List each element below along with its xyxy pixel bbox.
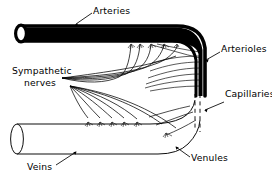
artery-lumen-opening bbox=[16, 25, 27, 42]
label-sympathetic-nerves-line2: nerves bbox=[24, 77, 56, 88]
label-arterioles: Arterioles bbox=[221, 43, 267, 54]
label-veins: Veins bbox=[27, 161, 52, 172]
blood-vessel-innervation-figure: Arteries Arterioles Capillaries Venules … bbox=[0, 0, 272, 177]
vein-lumen-opening bbox=[11, 124, 24, 154]
diagram-canvas: Arteries Arterioles Capillaries Venules … bbox=[0, 0, 272, 177]
label-capillaries: Capillaries bbox=[225, 88, 272, 99]
label-venules: Venules bbox=[191, 152, 228, 163]
label-arteries: Arteries bbox=[93, 5, 130, 16]
label-sympathetic-nerves-line1: Sympathetic bbox=[12, 65, 72, 76]
